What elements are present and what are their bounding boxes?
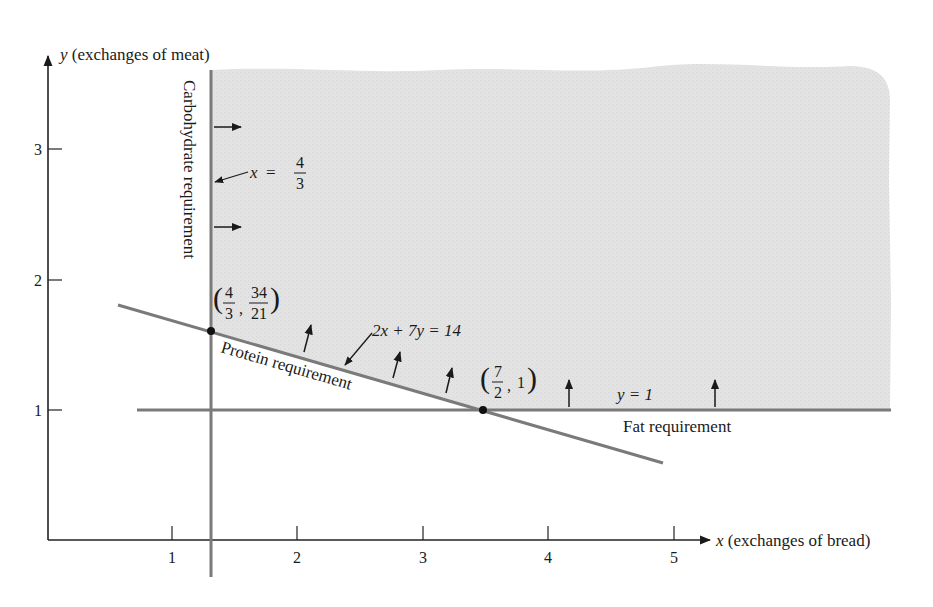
svg-text:7: 7 xyxy=(494,363,502,380)
feasible-region xyxy=(211,64,891,410)
feasible-region-diagram: 3 2 1 1 2 3 4 5 y (exchanges of meat) x … xyxy=(0,0,933,607)
svg-text:21: 21 xyxy=(251,305,267,322)
carbohydrate-eq-lhs: x xyxy=(249,163,258,182)
x-tick-3: 3 xyxy=(419,549,427,566)
svg-text:(: ( xyxy=(480,361,490,395)
y-axis-label: y (exchanges of meat) xyxy=(58,45,210,64)
y-ticks xyxy=(48,149,62,410)
y-tick-2: 2 xyxy=(34,272,42,289)
svg-text:(: ( xyxy=(213,281,223,315)
svg-text:1: 1 xyxy=(517,374,525,391)
svg-text:3: 3 xyxy=(225,305,233,322)
carbohydrate-eq-den: 3 xyxy=(296,175,304,192)
carbohydrate-label: Carbohydrate requirement xyxy=(180,80,199,259)
x-tick-4: 4 xyxy=(544,549,552,566)
fat-equation: y = 1 xyxy=(615,385,653,404)
svg-text:2: 2 xyxy=(494,384,502,401)
x-axis-label: x (exchanges of bread) xyxy=(715,531,870,550)
x-tick-5: 5 xyxy=(670,549,678,566)
svg-text:34: 34 xyxy=(251,284,267,301)
vertex-point-2 xyxy=(479,406,487,414)
y-tick-3: 3 xyxy=(34,141,42,158)
fat-label: Fat requirement xyxy=(623,417,731,436)
x-tick-2: 2 xyxy=(293,549,301,566)
vertex-point-1 xyxy=(207,327,215,335)
carbohydrate-eq-num: 4 xyxy=(296,154,304,171)
svg-text:,: , xyxy=(507,377,511,394)
x-ticks xyxy=(172,526,674,540)
svg-text:4: 4 xyxy=(225,284,233,301)
y-tick-1: 1 xyxy=(34,402,42,419)
protein-equation: 2x + 7y = 14 xyxy=(372,321,462,340)
carbohydrate-eq-sign: = xyxy=(266,163,276,182)
x-tick-1: 1 xyxy=(168,549,176,566)
svg-text:): ) xyxy=(527,361,537,395)
svg-text:,: , xyxy=(239,300,243,317)
svg-text:): ) xyxy=(270,281,280,315)
